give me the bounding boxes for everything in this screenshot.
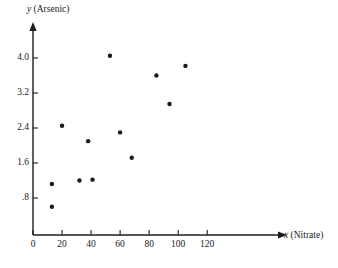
y-axis-tick-label: 3.2: [0, 88, 29, 98]
data-point: [60, 124, 64, 128]
axes-group: [29, 22, 287, 239]
x-axis-title: x (Nitrate): [284, 231, 323, 241]
y-axis-title: y (Arsenic): [27, 5, 69, 15]
x-axis-tick-label: 120: [187, 240, 227, 250]
data-point: [183, 64, 187, 68]
data-point: [118, 130, 122, 134]
data-point: [77, 178, 81, 182]
plot-canvas: [0, 0, 338, 268]
data-point: [50, 205, 54, 209]
ticks-group: [33, 58, 207, 235]
y-axis-title-unit: (Arsenic): [34, 4, 70, 14]
y-axis-tick-label: 4.0: [0, 53, 29, 63]
data-points-group: [50, 54, 188, 209]
data-point: [90, 177, 94, 181]
y-axis-tick-label: .8: [0, 193, 29, 203]
y-axis-arrow-icon: [29, 22, 36, 31]
scatter-plot-figure: .81.62.43.24.0 020406080100120 y (Arseni…: [0, 0, 338, 268]
data-point: [108, 54, 112, 58]
data-point: [167, 102, 171, 106]
data-point: [130, 156, 134, 160]
data-point: [50, 182, 54, 186]
data-point: [154, 73, 158, 77]
x-axis-title-unit: (Nitrate): [291, 230, 324, 240]
y-axis-tick-label: 1.6: [0, 158, 29, 168]
y-axis-tick-label: 2.4: [0, 123, 29, 133]
y-axis-title-variable: y: [27, 4, 31, 14]
x-axis-title-variable: x: [284, 230, 288, 240]
data-point: [86, 139, 90, 143]
